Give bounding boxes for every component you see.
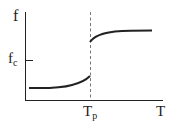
y-axis-label: f xyxy=(13,8,18,24)
tp-label: Tp xyxy=(83,104,97,119)
upper-curve xyxy=(90,31,152,43)
lower-curve xyxy=(29,76,90,88)
x-axis-label: T xyxy=(156,104,165,119)
fc-label: fc xyxy=(8,51,17,66)
